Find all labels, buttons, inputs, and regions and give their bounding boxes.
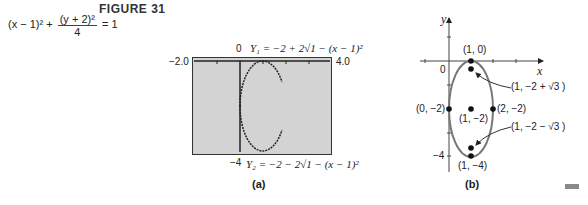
end-of-example-marker xyxy=(565,184,579,189)
point-label-1-0: (1, 0) xyxy=(463,44,486,55)
y-axis-label: y xyxy=(441,12,446,27)
x-axis-label: x xyxy=(537,64,542,79)
origin-label: 0 xyxy=(440,64,446,75)
point-label-upper-focus: (1, −2 + √3 ) xyxy=(511,81,565,92)
point-label-center: (1, −2) xyxy=(459,113,488,124)
point-label-1-neg4: (1, −4) xyxy=(458,160,487,171)
point-label-2-neg2: (2, −2) xyxy=(497,103,526,114)
tick-label-neg4: −4 xyxy=(433,150,444,161)
panel-b-label: (b) xyxy=(465,178,479,190)
point-label-lower-focus: (1, −2 − √3 ) xyxy=(511,121,565,132)
point-label-0-neg2: (0, −2) xyxy=(416,103,445,114)
